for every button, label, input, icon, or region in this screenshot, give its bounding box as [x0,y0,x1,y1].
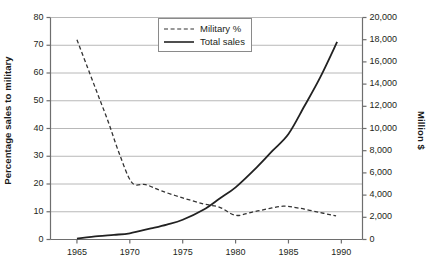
y-axis-right-tick-label: 14,000 [370,78,398,88]
chart-container: Percentage sales to military Million $ M… [0,0,429,271]
y-axis-left-tick-label: 20 [0,178,44,188]
series-line-military-percent [77,40,336,216]
y-axis-left-tick-label: 40 [0,123,44,133]
data-series [77,40,337,239]
y-axis-left-tick-label: 0 [0,234,44,244]
y-axis-left-tick-label: 80 [0,12,44,22]
x-axis-tick-label: 1990 [311,247,371,257]
legend-swatch-solid-icon [164,37,194,47]
y-axis-left-tick-label: 30 [0,150,44,160]
y-axis-right-tick-label: 20,000 [370,12,398,22]
series-line-total-sales [77,42,337,239]
y-axis-left-tick-label: 60 [0,67,44,77]
y-axis-right-tick-label: 6,000 [370,167,393,177]
y-axis-left-tick-label: 50 [0,95,44,105]
y-axis-right-tick-label: 18,000 [370,34,398,44]
x-axis-tick-label: 1980 [206,247,266,257]
y-axis-right-tick-label: 0 [370,234,375,244]
legend-swatch-dashed-icon [164,24,194,34]
x-axis-tick-label: 1975 [153,247,213,257]
y-axis-left-tick-label: 70 [0,39,44,49]
y-axis-right-tick-label: 4,000 [370,189,393,199]
x-axis-tick-label: 1970 [100,247,160,257]
legend-label-military: Military % [200,23,241,34]
y-axis-right-tick-label: 8,000 [370,145,393,155]
x-axis-tick-label: 1965 [47,247,107,257]
legend-item-military: Military % [164,22,245,35]
x-axis-tick-label: 1985 [258,247,318,257]
chart-legend: Military % Total sales [158,18,252,52]
legend-item-total-sales: Total sales [164,35,245,48]
y-axis-right-tick-label: 10,000 [370,123,398,133]
legend-label-total-sales: Total sales [200,36,245,47]
y-axis-left-tick-label: 10 [0,206,44,216]
y-axis-right-tick-label: 12,000 [370,100,398,110]
y-axis-right-tick-label: 16,000 [370,56,398,66]
y-axis-right-tick-label: 2,000 [370,211,393,221]
